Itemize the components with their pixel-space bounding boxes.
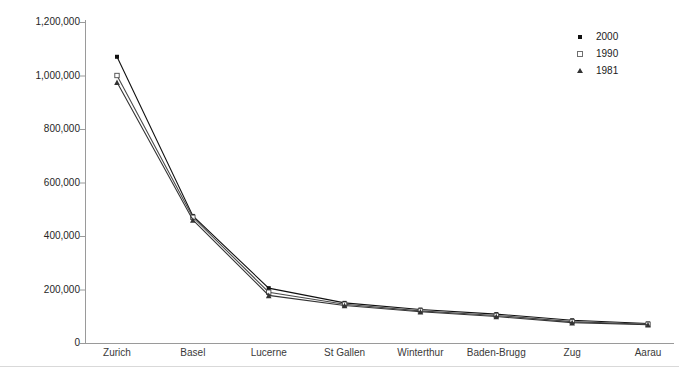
legend-marker-open-square-icon (575, 48, 587, 60)
legend-marker-shape (577, 68, 583, 73)
series-1981 (114, 79, 651, 327)
legend-marker-triangle-icon (575, 65, 587, 77)
legend-label: 1990 (596, 48, 618, 60)
legend-marker-filled-square-icon (575, 31, 587, 43)
legend-marker-shape (577, 51, 583, 57)
series-line (117, 82, 648, 325)
data-point-marker (115, 73, 119, 77)
legend-item-1990[interactable]: 1990 (575, 46, 670, 62)
series-2000 (115, 55, 650, 326)
legend-label: 1981 (596, 65, 618, 77)
series-line (117, 76, 648, 325)
bottom-divider (0, 366, 679, 367)
legend-item-2000[interactable]: 2000 (575, 29, 670, 45)
series-line (117, 57, 648, 324)
population-line-chart: Population 0200,000400,000600,000800,000… (0, 0, 679, 373)
data-point-marker (115, 55, 119, 59)
legend-label: 2000 (596, 31, 618, 43)
y-axis-tick-marks (80, 23, 85, 344)
legend-marker-shape (578, 35, 582, 39)
series-1990 (115, 73, 650, 326)
data-series-layer (114, 55, 651, 328)
legend: 200019901981 (575, 29, 670, 80)
legend-item-1981[interactable]: 1981 (575, 63, 670, 79)
